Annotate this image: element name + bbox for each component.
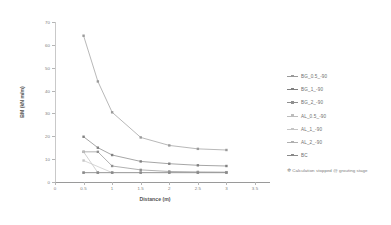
legend-entries: BG_0.5_-90BG_1_-90BG_2_-90AL_0.5_-90AL_1…: [287, 70, 387, 162]
legend-item-al-0-5-90[interactable]: AL_0.5_-90: [287, 110, 387, 123]
series-line: [84, 152, 227, 172]
legend-item-bg-0-5-90[interactable]: BG_0.5_-90: [287, 70, 387, 83]
legend-swatch-icon: [287, 99, 298, 106]
legend-label: BG_0.5_-90: [301, 74, 327, 79]
data-point-marker: [225, 165, 227, 167]
data-point-marker: [225, 171, 227, 173]
data-point-marker: [97, 151, 99, 153]
legend-swatch-line: [287, 129, 298, 130]
legend-swatch-icon: [287, 126, 298, 133]
data-point-marker: [140, 136, 142, 138]
data-point-marker: [97, 147, 99, 149]
legend-label: AL_1_-90: [301, 127, 322, 132]
legend-item-bg-1-90[interactable]: BG_1_-90: [287, 83, 387, 96]
legend-swatch-line: [287, 116, 298, 117]
legend-swatch-line: [287, 142, 298, 143]
data-point-marker: [197, 164, 199, 166]
data-point-marker: [82, 35, 84, 37]
series-bg-2-90: [82, 151, 227, 174]
data-point-marker: [225, 149, 227, 151]
series-al-0-5-90: [82, 151, 99, 174]
legend-item-bc[interactable]: BC: [287, 149, 387, 162]
series-bg-0-5-90: [82, 35, 227, 152]
data-point-marker: [111, 171, 113, 173]
legend-swatch-marker: [291, 75, 293, 77]
chart-container: 00.511.522.533.5 010203040506070 Distanc…: [0, 0, 391, 225]
legend-label: AL_2_-90: [301, 140, 322, 145]
legend-label: AL_0.5_-90: [301, 114, 326, 119]
legend-swatch-icon: [287, 73, 298, 80]
series-bg-1-90: [82, 136, 227, 168]
data-point-marker: [168, 144, 170, 146]
legend-swatch-icon: [287, 86, 298, 93]
data-point-marker: [168, 163, 170, 165]
series-line: [84, 152, 98, 173]
legend-swatch-marker: [291, 101, 293, 103]
legend-swatch-marker: [291, 114, 293, 116]
legend-swatch-marker: [291, 154, 293, 156]
legend-swatch-marker: [291, 141, 293, 143]
legend-label: BG_1_-90: [301, 87, 323, 92]
legend-swatch-icon: [287, 113, 298, 120]
data-point-marker: [82, 136, 84, 138]
data-point-marker: [197, 148, 199, 150]
series-line: [84, 36, 227, 150]
legend-swatch-line: [287, 76, 298, 77]
data-point-marker: [140, 169, 142, 171]
legend-note: ✲ Calculation stopped @ grouting stage: [287, 168, 387, 173]
legend-swatch-line: [287, 102, 298, 103]
data-point-marker: [97, 80, 99, 82]
legend-item-bg-2-90[interactable]: BG_2_-90: [287, 96, 387, 109]
legend-label: BC: [301, 153, 308, 158]
data-point-marker: [111, 154, 113, 156]
legend-swatch-icon: [287, 152, 298, 159]
legend: BG_0.5_-90BG_1_-90BG_2_-90AL_0.5_-90AL_1…: [287, 70, 387, 173]
data-point-marker: [111, 111, 113, 113]
data-point-marker: [82, 159, 84, 161]
data-point-marker: [82, 151, 84, 153]
data-point-marker: [197, 171, 199, 173]
legend-swatch-line: [287, 155, 298, 156]
data-point-marker: [168, 171, 170, 173]
legend-label: BG_2_-90: [301, 100, 323, 105]
legend-swatch-marker: [291, 128, 293, 130]
data-point-marker: [140, 171, 142, 173]
legend-swatch-line: [287, 89, 298, 90]
data-point-marker: [82, 171, 84, 173]
note-marker-icon: ✲: [287, 168, 291, 173]
legend-swatch-marker: [291, 88, 293, 90]
legend-swatch-icon: [287, 139, 298, 146]
legend-item-al-2-90[interactable]: AL_2_-90: [287, 136, 387, 149]
note-text: Calculation stopped @ grouting stage: [292, 168, 367, 173]
legend-item-al-1-90[interactable]: AL_1_-90: [287, 123, 387, 136]
data-point-marker: [111, 165, 113, 167]
data-point-marker: [97, 171, 99, 173]
series-line: [84, 161, 113, 173]
data-point-marker: [140, 160, 142, 162]
